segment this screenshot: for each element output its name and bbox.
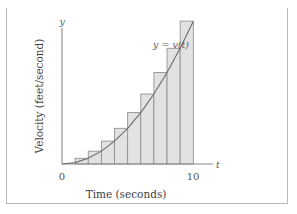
x-axis-symbol: t [216,159,220,170]
y-axis-title: Velocity (feet/second) [33,39,45,155]
x-tick-label-10: 10 [187,171,200,182]
x-axis-title: Time (seconds) [86,188,167,200]
table-row [167,48,180,164]
y-axis-symbol: y [59,16,66,27]
table-row [115,128,128,164]
table-row [101,141,114,164]
table-row [141,94,154,164]
plot-canvas: y t y = v(t) 0 10 Time (seconds) Velocit… [0,0,297,214]
table-row [154,73,167,164]
riemann-sum-figure: y t y = v(t) 0 10 Time (seconds) Velocit… [0,0,297,214]
x-tick-label-0: 0 [59,171,65,182]
curve-equation-label: y = v(t) [152,39,189,50]
